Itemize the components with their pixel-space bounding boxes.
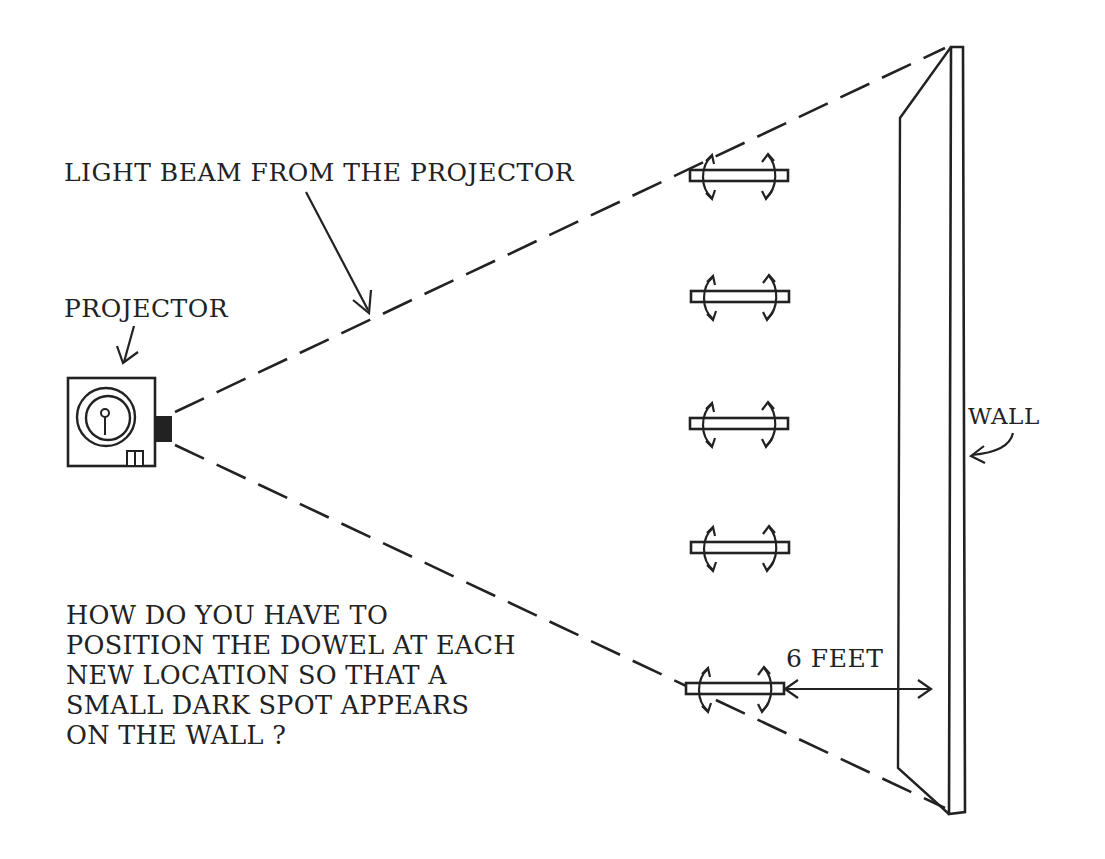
question-line: ON THE WALL ? xyxy=(66,720,516,750)
wall-label: WALL xyxy=(968,405,1040,428)
dowel-1 xyxy=(690,154,788,199)
diagram-canvas: LIGHT BEAM FROM THE PROJECTOR PROJECTOR … xyxy=(0,0,1105,859)
question-text: HOW DO YOU HAVE TO POSITION THE DOWEL AT… xyxy=(66,600,516,750)
projector-label: PROJECTOR xyxy=(64,296,228,321)
dowel-4 xyxy=(691,526,789,571)
question-line: NEW LOCATION SO THAT A xyxy=(66,660,516,690)
question-line: HOW DO YOU HAVE TO xyxy=(66,600,516,630)
projector-icon xyxy=(68,378,172,466)
light-beam-pointer-arrow xyxy=(306,192,368,310)
question-line: POSITION THE DOWEL AT EACH xyxy=(66,630,516,660)
wall xyxy=(898,47,965,814)
question-line: SMALL DARK SPOT APPEARS xyxy=(66,690,516,720)
dowel-3 xyxy=(690,402,788,447)
distance-label: 6 FEET xyxy=(786,646,883,671)
light-beam-label: LIGHT BEAM FROM THE PROJECTOR xyxy=(64,160,574,185)
dowel-2 xyxy=(691,275,789,320)
dowel-5 xyxy=(686,667,784,712)
double-headed-arrow-icon xyxy=(785,680,931,698)
